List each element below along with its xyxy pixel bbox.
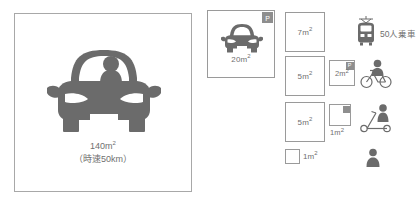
parking-badge-icon: P [262, 12, 273, 23]
train-capacity-label: 50人乗車 [380, 27, 416, 39]
card-area-label-20sqm: 20m2 [208, 55, 274, 64]
kick-scooter-with-rider-icon [360, 103, 394, 133]
square-area-label-5sqm-scooter: 5m2 [286, 118, 324, 127]
parking-badge-icon [343, 106, 350, 113]
pedestrian-icon [365, 148, 381, 168]
hero-area-label: 140m2 [15, 140, 191, 153]
train-front-icon [355, 16, 377, 46]
square-area-label-1sqm-scooter: 1m2 [330, 128, 360, 137]
square-1sqm-pedestrian [285, 149, 300, 164]
bicycle-with-rider-icon [360, 59, 392, 89]
square-area-label-1sqm-pedestrian: 1m2 [303, 152, 343, 161]
car-front-with-driver-icon [41, 44, 167, 136]
hero-panel-car-in-motion: 140m2 （時速50km） [14, 13, 192, 192]
square-2sqm-parked-bicycle: P 2m2 [329, 60, 355, 86]
square-area-label-2sqm: 2m2 [330, 69, 354, 78]
square-5sqm-scooter: 5m2 [285, 102, 325, 142]
hero-speed-label: （時速50km） [15, 153, 191, 166]
square-area-label-5sqm-bicycle: 5m2 [286, 72, 324, 81]
card-parked-car-20sqm: P 20m2 [207, 10, 275, 78]
square-area-label-7sqm: 7m2 [286, 28, 324, 37]
square-7sqm: 7m2 [285, 12, 325, 52]
square-1sqm-parked-scooter: 1m2 [329, 104, 351, 126]
square-5sqm-bicycle: 5m2 [285, 56, 325, 96]
hero-caption: 140m2 （時速50km） [15, 140, 191, 166]
car-front-icon [219, 23, 265, 53]
